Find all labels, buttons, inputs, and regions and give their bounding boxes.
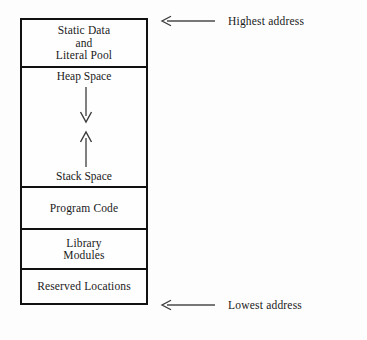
heap-down-arrow-icon [81,87,92,122]
heap-and-stack-growth-arrows-icon [22,87,150,167]
memory-segment-program-code: Program Code [22,188,146,230]
growth-direction-arrows [22,87,146,167]
memory-segment-label: Static Data and Literal Pool [54,24,114,62]
memory-segment-label: Library Modules [61,237,106,262]
memory-segment-label-stack: Stack Space [22,170,146,183]
memory-segment-label: Reserved Locations [35,280,133,293]
annotation-lowest-address: Lowest address [158,297,302,313]
memory-segment-label-heap: Heap Space [22,70,146,83]
stack-up-arrow-icon [81,132,92,167]
memory-segment-heap-stack: Heap Space Stack Space [22,68,146,188]
memory-segment-static-data: Static Data and Literal Pool [22,20,146,68]
memory-segment-library-modules: Library Modules [22,230,146,270]
memory-layout-diagram: Static Data and Literal Pool Heap Space [0,0,367,340]
memory-segment-reserved-locations: Reserved Locations [22,270,146,303]
memory-segment-label: Program Code [48,202,121,215]
memory-column: Static Data and Literal Pool Heap Space [20,18,148,305]
annotation-highest-address: Highest address [158,13,304,29]
annotation-label: Highest address [228,14,304,28]
left-arrow-icon [158,14,216,28]
left-arrow-icon [158,298,216,312]
annotation-label: Lowest address [228,298,302,312]
